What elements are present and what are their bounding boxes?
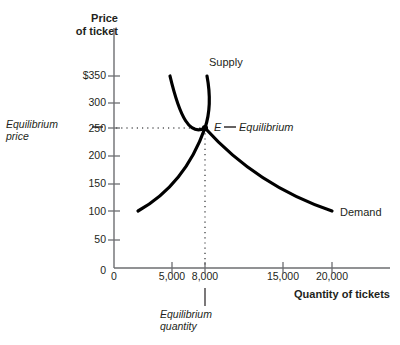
supply-demand-chart: Price of ticket Quantity of tickets $350… — [0, 0, 400, 345]
supply-curve — [138, 76, 209, 211]
demand-curve — [170, 76, 332, 211]
plot-area — [0, 0, 400, 345]
equilibrium-point-marker — [202, 125, 208, 131]
